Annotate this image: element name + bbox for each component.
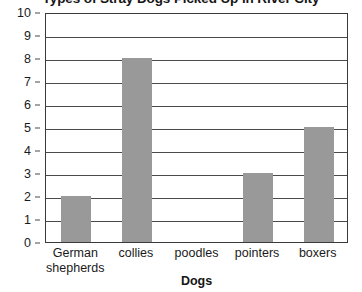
- y-tick-label: 5: [24, 122, 31, 135]
- y-tick-label: 0: [24, 237, 31, 250]
- gridline: [46, 60, 347, 61]
- y-tick-mark: [35, 243, 40, 244]
- x-tick-label: pointers: [235, 246, 279, 261]
- y-tick-mark: [35, 59, 40, 60]
- y-tick-mark: [35, 13, 40, 14]
- y-tick-mark: [35, 174, 40, 175]
- gridline: [46, 152, 347, 153]
- x-tick-label: collies: [119, 246, 154, 261]
- x-tick-label: Germanshepherds: [46, 246, 104, 276]
- gridline: [46, 129, 347, 130]
- y-tick-mark: [35, 151, 40, 152]
- y-tick-label: 2: [24, 191, 31, 204]
- y-tick-label: 9: [24, 30, 31, 43]
- gridline: [46, 37, 347, 38]
- y-tick-mark: [35, 82, 40, 83]
- x-tick-label-line: pointers: [235, 246, 279, 261]
- plot-area: [45, 13, 348, 243]
- gridline: [46, 175, 347, 176]
- y-tick-mark: [35, 220, 40, 221]
- x-tick-label-line: boxers: [299, 246, 337, 261]
- y-tick-label: 10: [17, 7, 31, 20]
- y-tick-label: 6: [24, 99, 31, 112]
- bar-chart-figure: Types of Stray Dogs Picked Up in River C…: [0, 0, 362, 292]
- gridline: [46, 106, 347, 107]
- y-tick-label: 8: [24, 53, 31, 66]
- x-tick-label-line: German: [46, 246, 104, 261]
- x-tick-label-line: poodles: [175, 246, 219, 261]
- y-axis: 109876543210: [0, 13, 40, 243]
- x-tick-label: poodles: [175, 246, 219, 261]
- x-tick-label: boxers: [299, 246, 337, 261]
- y-tick-label: 3: [24, 168, 31, 181]
- gridline: [46, 83, 347, 84]
- y-tick-label: 4: [24, 145, 31, 158]
- x-tick-label-line: collies: [119, 246, 154, 261]
- y-tick-mark: [35, 105, 40, 106]
- bar: [304, 127, 334, 242]
- chart-title: Types of Stray Dogs Picked Up in River C…: [0, 0, 362, 6]
- bar: [243, 173, 273, 242]
- y-tick-mark: [35, 36, 40, 37]
- y-tick-label: 7: [24, 76, 31, 89]
- x-axis-title: Dogs: [45, 274, 348, 288]
- bar: [61, 196, 91, 242]
- y-tick-mark: [35, 197, 40, 198]
- bar: [122, 58, 152, 242]
- y-tick-label: 1: [24, 214, 31, 227]
- y-tick-mark: [35, 128, 40, 129]
